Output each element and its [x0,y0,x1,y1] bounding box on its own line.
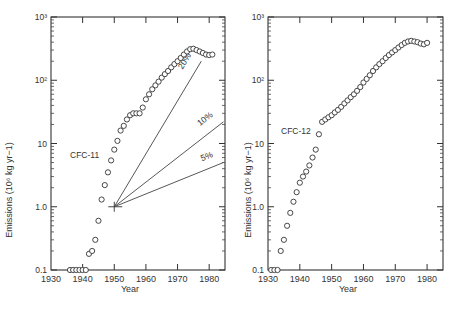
cfc11-data-point [146,92,151,97]
cfc12-x-tick-label: 1980 [417,274,437,284]
cfc11-x-tick-label: 1940 [73,274,93,284]
cfc11-data-point [143,97,148,102]
cfc12-y-tick-label: 10³ [252,12,264,22]
cfc12-data-point [310,155,315,160]
cfc12-x-tick-label: 1930 [258,274,278,284]
cfc11-y-tick-label: 1.0 [35,202,47,212]
growth-rate-label: 10% [195,109,215,128]
cfc12-x-tick-label: 1940 [290,274,310,284]
cfc12-data-point [316,132,321,137]
cfc11-y-tick-label: 10 [38,139,48,149]
cfc12-data-point [278,248,283,253]
left-y-axis-label: Emissions (10⁶ kg yr−1) [4,142,14,237]
cfc12-data-point [307,163,312,168]
cfc11-data-point [102,182,107,187]
cfc12-y-tick-label: 0.1 [252,265,264,275]
cfc12-data-point [294,190,299,195]
growth-rate-label: 5% [199,149,215,163]
cfc12-data-point [291,199,296,204]
cfc12-chart-panel: 1930194019501960197019800.11.01010²10³ [252,12,443,284]
cfc12-x-tick-label: 1960 [353,274,373,284]
cfc11-data-point [83,267,88,272]
cfc11-x-tick-label: 1970 [168,274,188,284]
cfc11-y-tick-label: 0.1 [35,265,47,275]
cfc12-y-tick-label: 1.0 [252,202,264,212]
cfc11-data-point [137,111,142,116]
cfc11-x-tick-label: 1960 [136,274,156,284]
cfc11-data-point [140,105,145,110]
cfc12-data-point [300,174,305,179]
cfc11-chart-panel: 1930194019501960197019800.11.01010²10³20… [35,12,225,284]
cfc12-data-point [288,210,293,215]
cfc11-data-point [105,170,110,175]
cfc12-data-point [304,169,309,174]
cfc11-y-tick-label: 10² [35,75,47,85]
cfc11-data-point [115,138,120,143]
cfc12-y-tick-label: 10² [252,75,264,85]
right-y-axis-label: Emissions (10⁶ kg yr−1) [243,142,253,237]
cfc11-data-point [93,237,98,242]
cfc12-y-tick-label: 10 [255,139,265,149]
figure: 1930194019501960197019800.11.01010²10³20… [0,0,457,311]
cfc11-series-label: CFC-11 [70,150,99,160]
cfc11-data-point [96,218,101,223]
cfc11-x-tick-label: 1930 [41,274,61,284]
cfc12-data-point [313,147,318,152]
left-x-axis-label: Year [121,284,139,294]
cfc11-y-tick-label: 10³ [35,12,47,22]
cfc11-x-tick-label: 1950 [104,274,124,284]
growth-line-10pct [114,122,223,207]
cfc11-data-point [210,52,215,57]
cfc11-x-tick-label: 1980 [199,274,219,284]
cfc12-data-point [281,237,286,242]
cfc11-data-point [112,147,117,152]
growth-line-5pct [114,163,223,207]
cfc12-data-point [424,40,429,45]
cfc12-data-point [275,267,280,272]
cfc11-data-point [121,123,126,128]
cfc12-x-tick-label: 1970 [385,274,405,284]
cfc11-data-point [99,197,104,202]
cfc11-plot-frame [51,17,225,270]
cfc12-data-point [297,180,302,185]
right-x-axis-label: Year [339,284,357,294]
cfc12-series-label: CFC-12 [281,126,311,136]
cfc12-data-point [284,223,289,228]
cfc11-data-point [118,128,123,133]
cfc12-x-tick-label: 1950 [322,274,342,284]
cfc12-plot-frame [268,17,443,270]
cfc11-data-point [90,248,95,253]
cfc11-data-point [109,158,114,163]
